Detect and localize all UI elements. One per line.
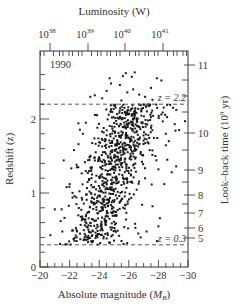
data-point xyxy=(63,159,65,161)
data-point xyxy=(111,186,113,188)
data-point xyxy=(145,106,147,108)
x-axis-label-end: ) xyxy=(167,288,171,301)
data-point xyxy=(77,122,79,124)
data-point xyxy=(159,217,161,219)
data-point xyxy=(84,219,86,221)
top-tick-label: 1040 xyxy=(113,27,131,40)
data-point xyxy=(131,181,133,183)
data-point xyxy=(163,107,165,109)
data-point xyxy=(84,233,86,235)
data-point xyxy=(124,117,126,119)
data-point xyxy=(140,115,142,117)
data-point xyxy=(112,215,114,217)
data-point xyxy=(91,142,93,144)
data-point xyxy=(72,229,74,231)
data-point xyxy=(137,146,139,148)
data-point xyxy=(107,232,109,234)
data-point xyxy=(92,240,94,242)
data-point xyxy=(133,193,135,195)
data-point xyxy=(104,233,106,235)
data-point xyxy=(54,208,56,210)
data-point xyxy=(82,133,84,135)
right-axis-label-main: Look–back time (10 xyxy=(218,114,231,204)
data-point xyxy=(125,134,127,136)
data-point xyxy=(121,174,123,176)
data-point xyxy=(126,179,128,181)
data-point xyxy=(121,118,123,120)
data-point xyxy=(110,135,112,137)
data-point xyxy=(140,236,142,238)
data-point xyxy=(126,242,128,244)
data-point xyxy=(111,201,113,203)
data-point xyxy=(103,204,105,206)
data-point xyxy=(135,156,137,158)
data-point xyxy=(133,156,135,158)
data-point xyxy=(126,182,128,184)
data-point xyxy=(119,116,121,118)
data-point xyxy=(90,225,92,227)
data-point xyxy=(150,116,152,118)
data-point xyxy=(76,236,78,238)
data-point xyxy=(151,154,153,156)
data-point xyxy=(87,229,89,231)
data-point xyxy=(144,142,146,144)
data-point xyxy=(128,198,130,200)
data-point xyxy=(100,202,102,204)
data-point xyxy=(97,217,99,219)
data-point xyxy=(113,215,115,217)
data-point xyxy=(97,160,99,162)
data-point xyxy=(85,222,87,224)
data-point xyxy=(145,123,147,125)
data-point xyxy=(81,197,83,199)
data-point xyxy=(81,199,83,201)
data-point xyxy=(64,217,66,219)
data-point xyxy=(105,221,107,223)
data-point xyxy=(134,227,136,229)
data-point xyxy=(130,197,132,199)
data-point xyxy=(111,168,113,170)
data-point xyxy=(130,139,132,141)
data-point xyxy=(119,110,121,112)
y-tick-label: 2 xyxy=(31,114,36,125)
data-point xyxy=(121,184,123,186)
data-point xyxy=(115,194,117,196)
data-point xyxy=(151,110,153,112)
data-point xyxy=(104,151,106,153)
data-point xyxy=(79,129,81,131)
data-point xyxy=(114,131,116,133)
data-point xyxy=(113,201,115,203)
data-point xyxy=(146,110,148,112)
data-point xyxy=(149,119,151,121)
data-point xyxy=(112,177,114,179)
top-tick-label: 1041 xyxy=(151,27,169,40)
data-point xyxy=(148,137,150,139)
data-point xyxy=(107,157,109,159)
data-point xyxy=(133,146,135,148)
data-point xyxy=(113,108,115,110)
data-point xyxy=(152,205,154,207)
data-point xyxy=(130,174,132,176)
data-point xyxy=(151,149,153,151)
data-point xyxy=(88,170,90,172)
data-point xyxy=(76,164,78,166)
data-point xyxy=(107,155,109,157)
data-point xyxy=(99,242,101,244)
right-axis-label-end: yr) xyxy=(218,96,231,112)
data-point xyxy=(143,140,145,142)
data-point xyxy=(147,120,149,122)
data-point xyxy=(60,220,62,222)
data-point xyxy=(106,210,108,212)
data-point xyxy=(125,121,127,123)
data-point xyxy=(122,126,124,128)
top-tick-exponent: 41 xyxy=(162,27,170,35)
top-tick-base: 10 xyxy=(76,29,87,40)
data-point xyxy=(107,180,109,182)
data-point xyxy=(175,130,177,132)
data-point xyxy=(93,225,95,227)
data-point xyxy=(107,170,109,172)
data-point xyxy=(96,114,98,116)
data-point xyxy=(134,223,136,225)
data-point xyxy=(97,213,99,215)
data-point xyxy=(147,134,149,136)
data-point xyxy=(127,137,129,139)
